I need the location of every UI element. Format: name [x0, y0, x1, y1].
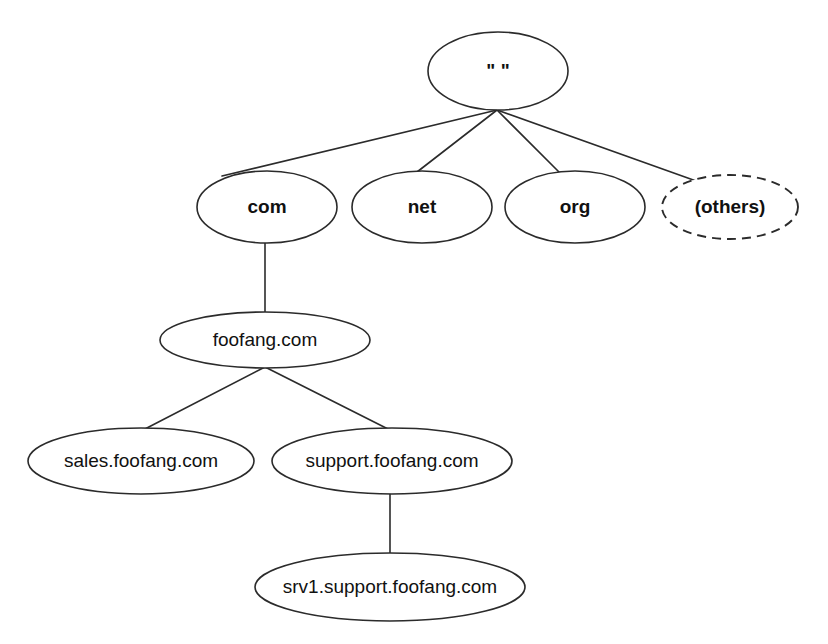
node-net: net: [352, 171, 492, 243]
node-others: (others): [662, 175, 798, 239]
node-com-label: com: [247, 196, 286, 217]
node-net-label: net: [408, 196, 437, 217]
node-srv1-label: srv1.support.foofang.com: [283, 576, 497, 597]
node-sales: sales.foofang.com: [28, 428, 254, 494]
edge-root-to-com: [222, 110, 497, 176]
edge-root-to-org: [497, 110, 561, 174]
node-com: com: [197, 171, 337, 243]
dns-tree-canvas: " "comnetorg(others)foofang.comsales.foo…: [0, 0, 828, 644]
node-root-label: " ": [486, 60, 509, 81]
node-others-label: (others): [695, 196, 766, 217]
edge-root-to-others: [497, 110, 699, 182]
node-support: support.foofang.com: [272, 428, 512, 494]
node-foofang: foofang.com: [160, 312, 370, 368]
node-root: " ": [428, 32, 568, 110]
node-org-label: org: [560, 196, 591, 217]
node-sales-label: sales.foofang.com: [64, 450, 218, 471]
node-org: org: [505, 171, 645, 243]
edge-foofang-to-support: [265, 367, 390, 430]
edge-foofang-to-sales: [143, 367, 265, 430]
node-foofang-label: foofang.com: [213, 329, 318, 350]
node-support-label: support.foofang.com: [305, 450, 478, 471]
node-srv1: srv1.support.foofang.com: [255, 553, 525, 621]
dns-hierarchy-diagram: " "comnetorg(others)foofang.comsales.foo…: [0, 0, 828, 644]
nodes-group: " "comnetorg(others)foofang.comsales.foo…: [28, 32, 798, 621]
